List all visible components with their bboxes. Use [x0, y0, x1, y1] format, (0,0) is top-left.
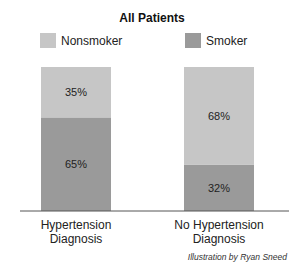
category-label-1: No HypertensionDiagnosis: [174, 218, 263, 246]
legend-label-smoker: Smoker: [206, 34, 247, 48]
category-labels: HypertensionDiagnosisNo HypertensionDiag…: [41, 218, 264, 246]
legend: NonsmokerSmoker: [40, 33, 247, 48]
data-label-nonsmoker-1: 68%: [208, 110, 230, 122]
data-label-nonsmoker-0: 35%: [65, 86, 87, 98]
data-label-smoker-0: 65%: [65, 158, 87, 170]
bars: 65%35%32%68%: [41, 67, 254, 211]
credit-text: Illustration by Ryan Sneed: [188, 252, 287, 262]
legend-swatch-nonsmoker: [40, 33, 56, 48]
legend-swatch-smoker: [185, 33, 201, 48]
category-label-0: HypertensionDiagnosis: [41, 218, 112, 246]
data-label-smoker-1: 32%: [208, 182, 230, 194]
chart: All Patients NonsmokerSmoker 65%35%32%68…: [0, 0, 305, 277]
chart-title: All Patients: [119, 11, 185, 25]
legend-label-nonsmoker: Nonsmoker: [61, 34, 122, 48]
